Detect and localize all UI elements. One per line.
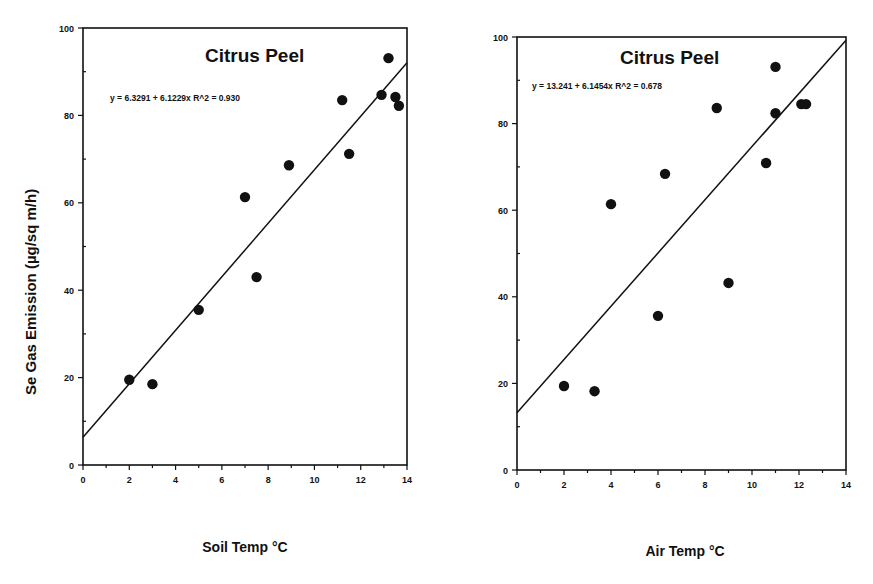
data-point — [770, 108, 780, 118]
chart-soil-temp: 02040608010002468101214Citrus Peely = 6.… — [59, 24, 412, 556]
y-tick-label: 80 — [64, 111, 74, 121]
regression-line — [517, 40, 846, 413]
y-tick-label: 40 — [64, 286, 74, 296]
x-tick-label: 12 — [794, 480, 804, 490]
x-tick-label: 14 — [402, 475, 412, 485]
data-point — [559, 381, 569, 391]
x-tick-label: 4 — [173, 475, 178, 485]
data-point — [284, 160, 294, 170]
x-tick-label: 10 — [747, 480, 757, 490]
x-axis-label: Soil Temp °C — [202, 539, 287, 555]
x-tick-label: 14 — [841, 480, 851, 490]
y-tick-label: 100 — [493, 33, 508, 43]
x-tick-label: 0 — [514, 480, 519, 490]
chart-air-temp: 02040608010002468101214Citrus Peely = 13… — [493, 33, 851, 560]
y-tick-label: 20 — [64, 373, 74, 383]
data-point — [344, 149, 354, 159]
x-tick-label: 0 — [80, 475, 85, 485]
scatter-charts: 02040608010002468101214Citrus Peely = 6.… — [0, 0, 873, 584]
data-point — [653, 311, 663, 321]
chart-title: Citrus Peel — [205, 45, 304, 66]
data-point — [606, 199, 616, 209]
x-tick-label: 4 — [608, 480, 613, 490]
y-tick-label: 60 — [498, 206, 508, 216]
x-tick-label: 12 — [356, 475, 366, 485]
y-tick-label: 100 — [59, 24, 74, 34]
x-tick-label: 6 — [655, 480, 660, 490]
data-point — [660, 169, 670, 179]
chart-title: Citrus Peel — [620, 47, 719, 68]
data-point — [770, 62, 780, 72]
y-tick-label: 0 — [69, 461, 74, 471]
x-tick-label: 10 — [309, 475, 319, 485]
x-axis-label: Air Temp °C — [645, 543, 724, 559]
x-tick-label: 2 — [561, 480, 566, 490]
data-point — [124, 375, 134, 385]
data-point — [194, 305, 204, 315]
data-point — [337, 95, 347, 105]
data-point — [394, 101, 404, 111]
data-point — [589, 386, 599, 396]
regression-equation: y = 6.3291 + 6.1229x R^2 = 0.930 — [110, 93, 240, 103]
x-tick-label: 8 — [266, 475, 271, 485]
x-tick-label: 6 — [219, 475, 224, 485]
data-point — [376, 90, 386, 100]
y-tick-label: 60 — [64, 198, 74, 208]
data-point — [801, 99, 811, 109]
data-point — [723, 278, 733, 288]
data-point — [761, 158, 771, 168]
y-tick-label: 80 — [498, 119, 508, 129]
x-tick-label: 2 — [127, 475, 132, 485]
y-tick-label: 0 — [503, 466, 508, 476]
regression-equation: y = 13.241 + 6.1454x R^2 = 0.678 — [532, 81, 662, 91]
data-point — [251, 272, 261, 282]
data-point — [240, 192, 250, 202]
data-point — [712, 103, 722, 113]
x-tick-label: 8 — [702, 480, 707, 490]
y-tick-label: 40 — [498, 292, 508, 302]
data-point — [383, 53, 393, 63]
y-tick-label: 20 — [498, 379, 508, 389]
data-point — [147, 379, 157, 389]
